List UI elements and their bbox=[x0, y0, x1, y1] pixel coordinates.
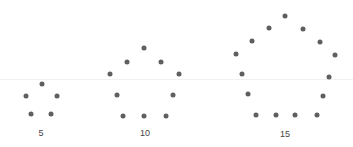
dot bbox=[321, 94, 326, 99]
dot bbox=[246, 92, 251, 97]
dot bbox=[254, 113, 259, 118]
dot bbox=[318, 40, 323, 45]
dot bbox=[115, 93, 120, 98]
group-label-10: 10 bbox=[140, 128, 150, 138]
dot bbox=[55, 94, 60, 99]
dot bbox=[240, 72, 245, 77]
dot bbox=[121, 114, 126, 119]
dot bbox=[29, 112, 34, 117]
dot bbox=[301, 27, 306, 32]
faint-horizontal-line bbox=[0, 79, 353, 80]
dot bbox=[234, 52, 239, 57]
dot bbox=[315, 113, 320, 118]
dot bbox=[274, 113, 279, 118]
dot bbox=[159, 60, 164, 65]
dot bbox=[125, 60, 130, 65]
dot bbox=[293, 113, 298, 118]
dot bbox=[250, 39, 255, 44]
dot bbox=[164, 114, 169, 119]
group-label-15: 15 bbox=[280, 129, 290, 139]
dot bbox=[40, 82, 45, 87]
dot bbox=[327, 75, 332, 80]
dot bbox=[49, 112, 54, 117]
dot bbox=[333, 53, 338, 58]
dot bbox=[283, 14, 288, 19]
dot bbox=[177, 72, 182, 77]
dot bbox=[108, 72, 113, 77]
dot bbox=[267, 26, 272, 31]
dot bbox=[171, 93, 176, 98]
dot-pattern-figure: 5 10 15 bbox=[0, 0, 353, 147]
dot bbox=[142, 114, 147, 119]
dot bbox=[24, 94, 29, 99]
dot bbox=[142, 46, 147, 51]
group-label-5: 5 bbox=[38, 128, 43, 138]
